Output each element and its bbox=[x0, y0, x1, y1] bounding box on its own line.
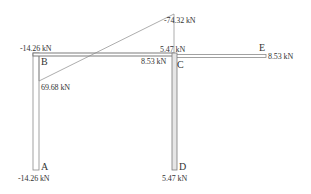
force-label-c-top: 5.47 kN bbox=[160, 46, 185, 54]
node-label-a: A bbox=[41, 162, 48, 172]
node-label-e: E bbox=[259, 43, 265, 53]
node-label-c: C bbox=[177, 60, 184, 70]
node-label-b: B bbox=[41, 57, 48, 67]
force-label-e-right: 8.53 kN bbox=[268, 53, 293, 61]
beam-force-diagram bbox=[39, 14, 174, 81]
column-cd bbox=[172, 53, 177, 170]
beam-bc bbox=[33, 53, 174, 56]
force-label-d-bottom: 5.47 kN bbox=[162, 175, 187, 183]
force-label-peak: -74.32 kN bbox=[164, 17, 196, 25]
force-label-c-left: 8.53 kN bbox=[141, 58, 166, 66]
force-label-b-diagonal: 69.68 kN bbox=[41, 84, 70, 92]
force-label-b-top: -14.26 kN bbox=[20, 45, 52, 53]
beam-ce bbox=[174, 55, 266, 58]
node-label-d: D bbox=[179, 162, 186, 172]
force-label-a-bottom: -14.26 kN bbox=[18, 175, 50, 183]
column-ab bbox=[33, 53, 39, 170]
